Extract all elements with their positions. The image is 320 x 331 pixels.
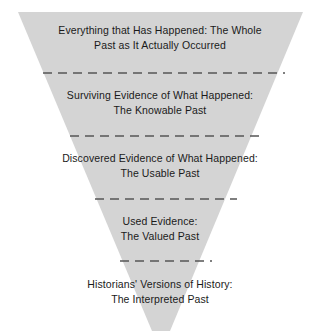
funnel-tier-label-valued-past: Used Evidence: The Valued Past — [80, 214, 240, 244]
funnel-tier-label-knowable-past: Surviving Evidence of What Happened: The… — [50, 88, 270, 118]
funnel-tier-label-usable-past: Discovered Evidence of What Happened: Th… — [45, 151, 275, 181]
funnel-tier-label-whole-past: Everything that Has Happened: The Whole … — [40, 23, 280, 53]
funnel-tier-label-interpreted-past: Historians' Versions of History: The Int… — [60, 277, 260, 307]
funnel-diagram: Everything that Has Happened: The Whole … — [0, 0, 320, 331]
